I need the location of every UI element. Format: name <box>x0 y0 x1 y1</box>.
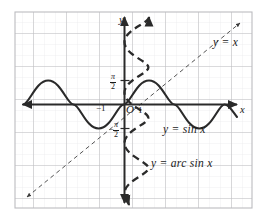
pi-numerator: π <box>110 73 116 81</box>
two-denominator: 2 <box>110 83 116 91</box>
arcsine-curve-label: y = arc sin x <box>151 158 213 170</box>
identity-line-label: y = x <box>213 37 238 49</box>
two-denominator: 2 <box>113 131 119 139</box>
x-tick-label-one: 1 <box>138 106 143 115</box>
y-axis-label: y <box>119 15 124 26</box>
y-tick-label-negative-pi-over-2: − π 2 <box>113 121 119 139</box>
x-tick-label-negative-one: −1 <box>96 104 106 113</box>
y-tick-label-pi-over-2: π 2 <box>110 73 116 91</box>
sine-curve-label: y = sin x <box>163 124 206 136</box>
pi-numerator: π <box>113 121 119 129</box>
minus-sign: − <box>109 125 114 134</box>
origin-label: O <box>126 104 134 115</box>
x-axis-label: x <box>240 105 245 116</box>
graph-figure: y x O 1 −1 π 2 − π 2 y = x y = sin x y =… <box>0 0 267 218</box>
